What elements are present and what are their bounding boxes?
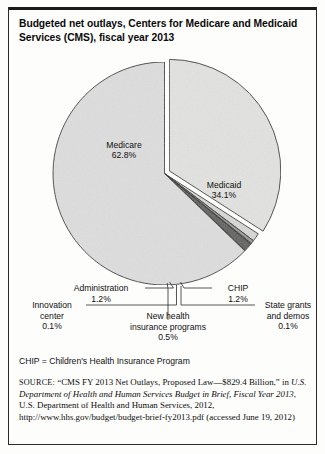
callout-new-health-name-line-2: insurance programs [122, 322, 214, 333]
source-publication-2: Fiscal Year 2013 [233, 389, 293, 399]
callout-new-health-name-line-1: New health [122, 311, 214, 322]
pie-slice-group [53, 59, 281, 285]
source-kicker: SOURCE: [19, 378, 55, 387]
callout-new-health-value: 0.5% [122, 332, 214, 343]
slice-label-medicaid-name: Medicaid [207, 180, 241, 190]
source-in-word: in [282, 377, 289, 387]
pie-chart: Medicare 62.8% Medicaid 34.1% Administra… [0, 0, 325, 340]
slice-label-medicare-value: 62.8% [112, 150, 136, 160]
callout-state-grants-and-demos: State grants and demos 0.1% [255, 300, 321, 332]
callout-state-grants-name-line-1: State grants [255, 300, 321, 311]
slice-label-medicaid-value: 34.1% [212, 190, 236, 200]
slice-label-medicare-name: Medicare [106, 140, 141, 150]
frame-bottom-rule [8, 444, 317, 445]
source-quoted-title: “CMS FY 2013 Net Outlays, Proposed Law—$… [57, 377, 280, 387]
callout-new-health-insurance-programs: New health insurance programs 0.5% [122, 311, 214, 343]
callout-innovation-center-name-line-1: Innovation [18, 300, 86, 311]
pie-chart-svg [0, 0, 325, 340]
slice-label-medicare: Medicare 62.8% [86, 140, 162, 161]
figure-panel: Budgeted net outlays, Centers for Medica… [0, 0, 325, 454]
slice-label-medicaid: Medicaid 34.1% [186, 180, 262, 201]
callout-innovation-center: Innovation center 0.1% [18, 300, 86, 332]
source-accessed-date: June 19, 2012) [242, 412, 295, 422]
callout-state-grants-name-line-2: and demos [255, 311, 321, 322]
callout-administration-name: Administration [57, 283, 145, 294]
chip-abbreviation-footnote: CHIP = Children's Health Insurance Progr… [19, 356, 309, 367]
callout-state-grants-value: 0.1% [255, 321, 321, 332]
callout-innovation-center-name-line-2: center [18, 311, 86, 322]
source-note: SOURCE: “CMS FY 2013 Net Outlays, Propos… [19, 377, 311, 423]
callout-innovation-center-value: 0.1% [18, 321, 86, 332]
callout-chip-name: CHIP [213, 283, 263, 294]
